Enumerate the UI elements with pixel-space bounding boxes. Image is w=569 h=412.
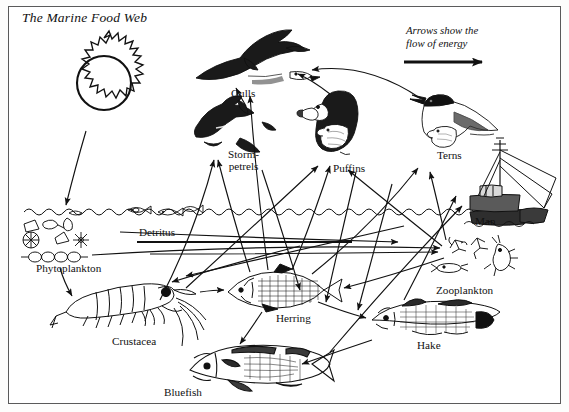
edge-surface-detritus-b (186, 226, 404, 276)
label-crustacea: Crustacea (112, 336, 156, 347)
edge-zooplankton-puffins (348, 170, 442, 246)
edge-crustacea-herring (200, 290, 224, 292)
label-puffins: Puffins (333, 163, 365, 174)
gull-bird-icon (196, 30, 320, 85)
edge-zooplankton-herring (344, 258, 444, 288)
edge-herring-stormpetrels (218, 160, 250, 272)
fishing-boat-icon (464, 138, 556, 227)
figure-title: The Marine Food Web (22, 11, 147, 25)
edge-sun-phytoplankton (66, 131, 86, 205)
sun-icon (77, 31, 143, 110)
legend-note-line2: flow of energy (406, 37, 478, 50)
tern-bird-icon (410, 95, 498, 147)
puffin-bird-icon (297, 91, 358, 155)
legend-note: Arrows show the flow of energy (406, 24, 478, 49)
label-gulls: Gulls (231, 88, 255, 99)
edge-zooplankton-terns (430, 172, 446, 240)
sea-surface-icon (24, 209, 544, 215)
label-detritus: Detritus (139, 227, 175, 238)
edge-crustacea-puffins (186, 166, 318, 288)
food-web-artwork (0, 0, 569, 412)
label-terns: Terns (437, 150, 462, 161)
copepod-icon (431, 235, 518, 276)
legend-note-line1: Arrows show the (406, 24, 478, 37)
hake-fish-icon (372, 299, 500, 335)
label-herring: Herring (276, 313, 311, 324)
label-hake: Hake (417, 340, 441, 351)
petrel-bird-icon (194, 96, 276, 153)
energy-flow-arrows (60, 69, 462, 364)
bluefish-fish-icon (190, 345, 334, 391)
edge-terns-gulls (312, 69, 420, 98)
marine-food-web-figure: The Marine Food Web Arrows show the flow… (0, 0, 569, 412)
label-phytoplankton: Phytoplankton (36, 263, 101, 274)
edge-herring-bluefish (240, 312, 262, 344)
label-man: Man (475, 216, 496, 227)
edge-herring-gulls (250, 96, 268, 270)
label-zooplankton: Zooplankton (436, 285, 493, 296)
label-storm-petrels: Storm- petrels (228, 149, 259, 172)
diatom-cluster-icon (21, 218, 89, 262)
edge-herring-hake (318, 302, 366, 318)
label-storm-petrels-line1: Storm- (228, 149, 259, 161)
edge-herring-puffins (292, 166, 330, 270)
edge-detritus-zooplankton (150, 252, 438, 254)
label-storm-petrels-line2: petrels (228, 161, 259, 173)
label-bluefish: Bluefish (164, 387, 202, 398)
